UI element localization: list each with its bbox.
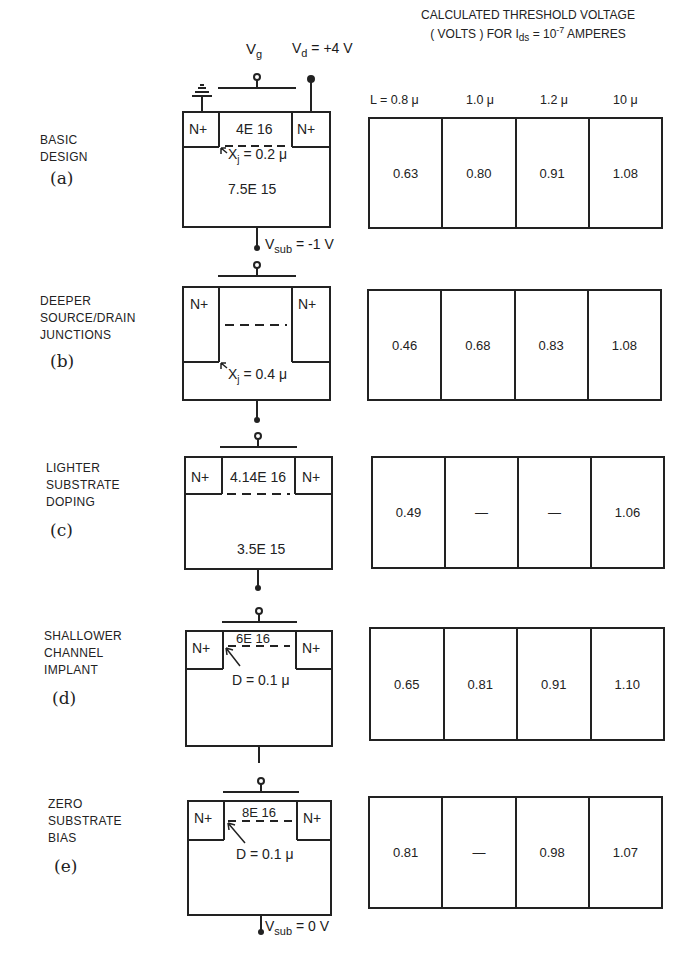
row-tag-c: (c) (50, 520, 73, 540)
svg-text:4E 16: 4E 16 (236, 121, 273, 137)
value-cell: 0.80 (443, 119, 516, 227)
device-diagram-b: N+ N+ Xj = 0.4 μ (170, 258, 350, 433)
svg-text:N+: N+ (189, 121, 207, 137)
value-cell: 0.91 (518, 629, 592, 739)
table-header: CALCULATED THRESHOLD VOLTAGE ( VOLTS ) F… (378, 8, 678, 45)
row-tag-d: (d) (52, 688, 76, 708)
value-cell: 0.46 (369, 291, 442, 399)
svg-text:N+: N+ (302, 640, 320, 656)
row-tag-b: (b) (50, 351, 74, 371)
value-cell: 0.63 (370, 119, 443, 227)
header-line-1: CALCULATED THRESHOLD VOLTAGE (378, 8, 678, 23)
row-title-a: BASIC DESIGN (40, 132, 88, 166)
svg-text:N+: N+ (303, 810, 321, 826)
svg-text:N+: N+ (297, 121, 315, 137)
value-cell: 1.07 (590, 798, 661, 907)
row-title-b: DEEPER SOURCE/DRAIN JUNCTIONS (40, 293, 136, 344)
value-cell: — (443, 798, 516, 907)
svg-text:D = 0.1 μ: D = 0.1 μ (236, 846, 293, 862)
value-cell: 0.81 (370, 798, 443, 907)
svg-text:N+: N+ (192, 640, 210, 656)
value-cell: — (446, 458, 519, 567)
row-tag-e: (e) (54, 856, 77, 876)
svg-text:8E 16: 8E 16 (242, 805, 276, 820)
svg-text:D = 0.1 μ: D = 0.1 μ (232, 672, 289, 688)
svg-text:Xj = 0.2 μ: Xj = 0.2 μ (228, 146, 287, 165)
row-title-c: LIGHTER SUBSTRATE DOPING (46, 460, 120, 511)
header-line-2: ( VOLTS ) FOR Ids = 10-7 AMPERES (378, 23, 678, 45)
svg-text:4.14E 16: 4.14E 16 (230, 469, 286, 485)
value-cell: 1.06 (592, 458, 663, 567)
value-cell: 1.08 (589, 291, 660, 399)
column-header-1: 1.0 μ (466, 93, 494, 107)
value-cell: — (519, 458, 592, 567)
svg-text:7.5E 15: 7.5E 15 (228, 181, 276, 197)
drain-voltage-label: Vd = +4 V (292, 40, 353, 59)
value-cell: 0.68 (442, 291, 515, 399)
value-cell: 0.83 (516, 291, 589, 399)
device-diagram-a: N+ N+ 4E 16 Xj = 0.2 μ 7.5E 15 (170, 60, 350, 260)
value-cell: 0.65 (371, 629, 445, 739)
value-cell: 1.10 (592, 629, 664, 739)
values-table-a: 0.63 0.80 0.91 1.08 (368, 117, 663, 229)
value-cell: 0.49 (373, 458, 446, 567)
svg-text:N+: N+ (302, 469, 320, 485)
device-diagram-e: N+ N+ 8E 16 D = 0.1 μ (170, 765, 350, 935)
row-title-d: SHALLOWER CHANNEL IMPLANT (44, 628, 122, 679)
values-table-c: 0.49 — — 1.06 (371, 456, 665, 569)
row-title-e: ZERO SUBSTRATE BIAS (48, 796, 122, 847)
column-header-3: 10 μ (613, 93, 638, 107)
column-header-2: 1.2 μ (540, 93, 568, 107)
column-header-0: L = 0.8 μ (370, 93, 419, 107)
row-tag-a: (a) (50, 168, 73, 188)
gate-voltage-label: Vg (246, 40, 262, 60)
value-cell: 0.98 (517, 798, 590, 907)
values-table-e: 0.81 — 0.98 1.07 (368, 796, 663, 909)
svg-text:6E 16: 6E 16 (236, 631, 270, 646)
value-cell: 0.81 (445, 629, 519, 739)
svg-text:N+: N+ (194, 810, 212, 826)
values-table-d: 0.65 0.81 0.91 1.10 (369, 627, 665, 741)
svg-text:N+: N+ (190, 296, 208, 312)
svg-text:3.5E 15: 3.5E 15 (237, 541, 285, 557)
values-table-b: 0.46 0.68 0.83 1.08 (367, 289, 662, 401)
device-diagram-c: N+ N+ 4.14E 16 3.5E 15 (170, 430, 350, 605)
value-cell: 0.91 (517, 119, 590, 227)
svg-text:N+: N+ (191, 469, 209, 485)
device-diagram-d: N+ N+ 6E 16 D = 0.1 μ (170, 595, 350, 770)
value-cell: 1.08 (590, 119, 661, 227)
svg-text:N+: N+ (298, 296, 316, 312)
svg-text:Xj = 0.4 μ: Xj = 0.4 μ (228, 366, 287, 385)
